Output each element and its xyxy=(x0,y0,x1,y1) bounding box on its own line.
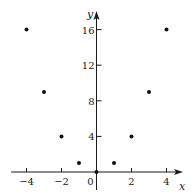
data-point xyxy=(147,90,151,94)
data-point xyxy=(130,134,134,138)
x-axis-label: x xyxy=(179,180,186,193)
x-tick-label: −2 xyxy=(54,176,69,187)
data-point xyxy=(77,161,81,165)
x-tick-label: 0 xyxy=(87,176,93,187)
x-tick-label: −4 xyxy=(19,176,34,187)
data-point xyxy=(25,28,29,32)
y-tick-label: 12 xyxy=(82,60,95,71)
ticks: −4−2024481216 xyxy=(19,25,170,187)
scatter-chart: −4−2024481216 x y xyxy=(0,0,196,196)
y-tick-label: 8 xyxy=(88,96,94,107)
data-point xyxy=(165,28,169,32)
y-tick-label: 16 xyxy=(82,25,95,36)
y-tick-label: 4 xyxy=(88,131,94,142)
x-tick-label: 4 xyxy=(163,176,169,187)
x-tick-label: 2 xyxy=(128,176,134,187)
y-axis-label: y xyxy=(86,8,94,21)
data-point xyxy=(42,90,46,94)
data-point xyxy=(112,161,116,165)
data-point xyxy=(60,134,64,138)
data-point xyxy=(95,170,99,174)
